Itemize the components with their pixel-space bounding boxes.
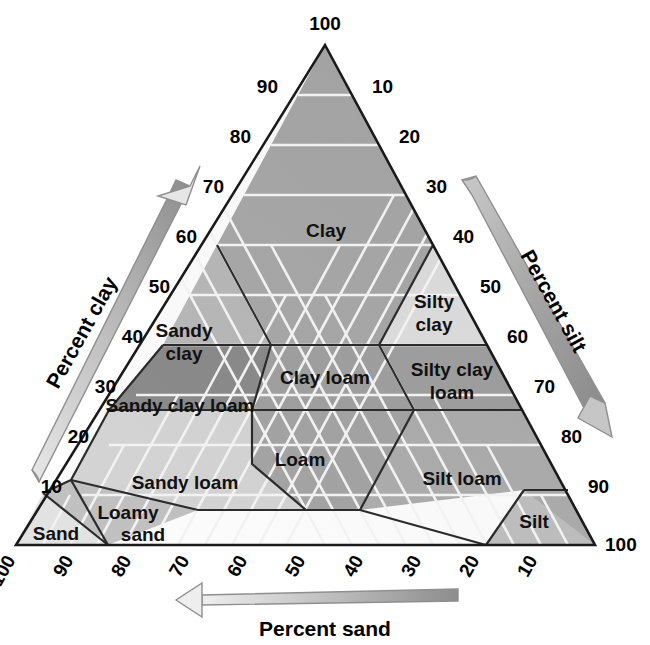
label-clay-loam: Clay loam (280, 367, 370, 388)
tick-apex-100: 100 (309, 13, 341, 34)
tick-clay-30: 30 (95, 376, 116, 397)
tick-silt-20: 20 (399, 126, 420, 147)
tick-sand-80: 80 (107, 552, 136, 581)
tick-clay-10: 10 (41, 476, 62, 497)
tick-clay-20: 20 (68, 426, 89, 447)
tick-silt-90: 90 (588, 476, 609, 497)
label-sandy-clay-line1: Sandy (155, 320, 212, 341)
label-silty-clay-loam-line2: loam (430, 382, 474, 403)
label-sandy-loam: Sandy loam (132, 472, 239, 493)
tick-clay-50: 50 (149, 276, 170, 297)
tick-sand-40: 40 (339, 552, 368, 581)
label-sandy-clay-loam: Sandy clay loam (106, 395, 255, 416)
tick-silt-30: 30 (426, 176, 447, 197)
label-clay: Clay (306, 220, 347, 241)
tick-sand-60: 60 (223, 552, 252, 581)
label-silty-clay-line1: Silty (414, 291, 455, 312)
tick-sand-100: 100 (0, 552, 19, 590)
percent-sand-arrow (176, 583, 458, 617)
tick-silt-50: 50 (480, 276, 501, 297)
axis-title-percent-sand: Percent sand (259, 617, 391, 640)
tick-sand-30: 30 (397, 552, 426, 581)
tick-sand-10: 10 (513, 552, 542, 581)
label-sand: Sand (33, 523, 79, 544)
label-loamy-sand-line1: Loamy (97, 502, 159, 523)
bottom-axis-ticks: 100 90 80 70 60 50 40 30 20 10 (0, 552, 541, 590)
label-loam: Loam (275, 449, 326, 470)
tick-silt-70: 70 (534, 376, 555, 397)
tick-sand-50: 50 (281, 552, 310, 581)
label-silty-clay-loam-line1: Silty clay (411, 359, 494, 380)
tick-clay-70: 70 (203, 176, 224, 197)
soil-texture-triangle-figure: 100 90 80 70 60 50 40 30 20 10 10 20 30 … (0, 0, 650, 645)
tick-clay-40: 40 (122, 326, 143, 347)
tick-silt-100: 100 (605, 534, 637, 555)
tick-clay-80: 80 (230, 126, 251, 147)
tick-sand-20: 20 (455, 552, 484, 581)
tick-silt-10: 10 (372, 76, 393, 97)
tick-clay-90: 90 (257, 76, 278, 97)
label-silt-loam: Silt loam (422, 468, 501, 489)
label-sandy-clay-line2: clay (166, 343, 203, 364)
label-silty-clay-line2: clay (416, 314, 453, 335)
label-silt: Silt (519, 511, 549, 532)
tick-silt-40: 40 (453, 226, 474, 247)
ternary-plot-svg: 100 90 80 70 60 50 40 30 20 10 10 20 30 … (0, 0, 650, 645)
label-loamy-sand-line2: sand (121, 524, 165, 545)
tick-silt-60: 60 (507, 326, 528, 347)
tick-sand-90: 90 (49, 552, 78, 581)
tick-clay-60: 60 (176, 226, 197, 247)
tick-sand-70: 70 (165, 552, 194, 581)
tick-silt-80: 80 (561, 426, 582, 447)
